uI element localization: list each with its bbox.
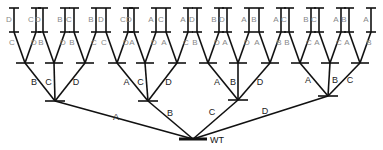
- leaf-label: C: [281, 15, 287, 24]
- level3-edge: [25, 32, 36, 63]
- leaf-label: D: [219, 15, 225, 24]
- leaf-label: D: [6, 15, 12, 24]
- level2-edge: [54, 63, 55, 101]
- level3-edge: [177, 32, 188, 63]
- level3-edge-label: C: [336, 38, 342, 47]
- level3-edge-label: A: [161, 38, 167, 47]
- level2-edge-label: D: [257, 77, 264, 87]
- level2-edge: [238, 63, 270, 100]
- leaf-label: B: [57, 15, 62, 24]
- leaf-label: B: [341, 15, 346, 24]
- level3-edge: [197, 32, 208, 63]
- level3-edge: [74, 32, 85, 63]
- level3-edge-label: A: [129, 38, 135, 47]
- level3-edge-label: B: [69, 38, 74, 47]
- level2-edge-label: D: [73, 77, 80, 87]
- level2-edge: [55, 63, 85, 101]
- leaf-label: B: [211, 15, 216, 24]
- level2-edge-label: A: [305, 75, 311, 85]
- leaf-label: B: [88, 15, 93, 24]
- level1-edge-label: D: [262, 106, 269, 116]
- leaf-label: A: [180, 15, 186, 24]
- level3-edge-label: D: [123, 38, 129, 47]
- leaf-label: D: [126, 15, 132, 24]
- leaf-label: C: [66, 15, 72, 24]
- level3-edge: [319, 32, 330, 63]
- level2-edge-label: B: [332, 75, 338, 85]
- level3-edge: [360, 32, 371, 63]
- level3-edge-label: A: [314, 38, 320, 47]
- level3-edge: [54, 32, 65, 63]
- level2-edge-label: A: [123, 77, 129, 87]
- level3-edge-label: C: [9, 38, 15, 47]
- level3-edge: [117, 32, 128, 63]
- level2-edge-label: C: [137, 77, 144, 87]
- leaf-label: B: [303, 15, 308, 24]
- leaf-label: C: [28, 15, 34, 24]
- level3-edge: [259, 32, 270, 63]
- level3-edge: [85, 32, 96, 63]
- level3-edge-label: D: [244, 38, 250, 47]
- level3-edge: [227, 32, 238, 63]
- level3-edge: [166, 32, 177, 63]
- level3-edge: [208, 32, 219, 63]
- level3-edge-label: C: [183, 38, 189, 47]
- level3-edge: [300, 32, 311, 63]
- level2-edge-label: C: [45, 77, 52, 87]
- root-label: WT: [210, 135, 224, 145]
- level1-edge: [55, 101, 193, 139]
- mutation-tree-diagram: WTABCDBCDDCCBDDBDBCCBACDDCCADDADACCAABDD…: [0, 0, 383, 150]
- level3-edge: [330, 32, 341, 63]
- leaf-label: D: [98, 15, 104, 24]
- level3-edge: [43, 32, 54, 63]
- level3-edge-label: C: [101, 38, 107, 47]
- leaf-label: C: [311, 15, 317, 24]
- level3-edge-label: D: [60, 38, 66, 47]
- level1-edge-label: C: [209, 107, 216, 117]
- level3-edge: [106, 32, 117, 63]
- level1-edge-label: A: [113, 112, 119, 122]
- level2-edge-label: B: [230, 77, 236, 87]
- leaf-label: A: [273, 15, 279, 24]
- tree-edges: [9, 8, 376, 139]
- level3-edge-label: C: [91, 38, 97, 47]
- level3-edge-label: B: [366, 38, 371, 47]
- leaf-label: A: [333, 15, 339, 24]
- leaf-label: A: [148, 15, 154, 24]
- level3-edge-label: A: [222, 38, 228, 47]
- leaf-label: D: [189, 15, 195, 24]
- level2-edge-label: D: [165, 77, 172, 87]
- leaf-label: A: [363, 15, 369, 24]
- level3-edge-label: D: [151, 38, 157, 47]
- leaf-label: B: [251, 15, 256, 24]
- level1-edge: [193, 100, 238, 139]
- level3-edge: [270, 32, 281, 63]
- level2-edge: [328, 63, 330, 96]
- level2-edge-label: B: [31, 77, 37, 87]
- level2-edge-label: C: [347, 75, 354, 85]
- leaf-label: C: [158, 15, 164, 24]
- level2-edge-label: A: [214, 77, 220, 87]
- level2-edge: [145, 63, 148, 101]
- level3-edge-label: B: [192, 38, 197, 47]
- level3-edge-label: A: [344, 38, 350, 47]
- level3-edge: [14, 32, 25, 63]
- level3-edge-label: A: [254, 38, 260, 47]
- level2-edge: [148, 63, 177, 101]
- level3-edge: [349, 32, 360, 63]
- level3-edge: [238, 32, 249, 63]
- level3-edge-label: B: [284, 38, 289, 47]
- level3-edge: [289, 32, 300, 63]
- level1-edge-label: B: [167, 108, 173, 118]
- leaf-label: D: [35, 15, 41, 24]
- tree-labels: WTABCDBCDDCCBDDBDBCCBACDDCCADDADACCAABDD…: [6, 15, 372, 145]
- level3-edge-label: B: [38, 38, 43, 47]
- level3-edge-label: D: [31, 38, 37, 47]
- level3-edge-label: D: [214, 38, 220, 47]
- level1-edge: [193, 96, 328, 139]
- level3-edge-label: B: [276, 38, 281, 47]
- level3-edge: [134, 32, 145, 63]
- level3-edge-label: C: [306, 38, 312, 47]
- leaf-label: A: [241, 15, 247, 24]
- level3-edge: [145, 32, 156, 63]
